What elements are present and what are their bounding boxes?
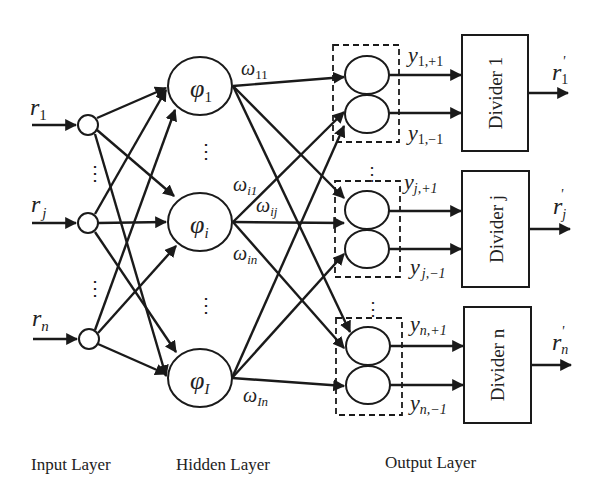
ellipsis-hidden-lower: ⋮ (196, 294, 216, 316)
hidden-output-edges (232, 77, 350, 386)
input-label-n: rn (32, 305, 49, 334)
output-nodes (345, 56, 390, 404)
caption-output-layer: Output Layer (385, 453, 476, 472)
input-node-1 (78, 115, 98, 135)
divider-label-j: Divider j (486, 195, 507, 263)
y-label-1-minus: y1,−1 (406, 120, 443, 147)
weight-label-i1: ωi1 (233, 173, 257, 198)
y-label-j-plus: yj,+1 (402, 169, 438, 196)
divider-label-1: Divider 1 (485, 57, 506, 129)
input-node-n (79, 329, 99, 349)
caption-input-layer: Input Layer (31, 455, 111, 474)
output-node-n-minus (346, 366, 390, 404)
output-label-rj: rj' (553, 187, 566, 222)
final-output-arrows (528, 93, 571, 365)
output-node-j-plus (345, 191, 389, 229)
weight-label-In: ωIn (243, 384, 268, 409)
output-node-j-minus (345, 230, 389, 268)
rbf-network-diagram: ⋮ ⋮ ⋮ ⋮ ⋮ ⋮ r1 rj rn φ1 φi φI ω11 ωi1 ωi… (0, 0, 593, 497)
weight-label-11: ω11 (241, 57, 268, 82)
output-label-rn: rn' (552, 324, 568, 357)
input-hidden-edges (95, 88, 176, 376)
ellipsis-dots: ⋮ ⋮ ⋮ ⋮ ⋮ ⋮ (85, 140, 382, 319)
ellipsis-output-lower: ⋮ (364, 299, 382, 319)
caption-hidden-layer: Hidden Layer (176, 455, 270, 474)
ellipsis-hidden-upper: ⋮ (196, 140, 216, 162)
ellipsis-output-upper: ⋮ (363, 164, 381, 184)
output-label-r1: r1' (552, 54, 568, 87)
y-label-n-minus: yn,−1 (408, 390, 447, 417)
weight-label-ij: ωij (256, 194, 278, 219)
ellipsis-input-upper: ⋮ (85, 162, 105, 184)
input-label-j: rj (31, 191, 47, 221)
y-label-1-plus: y1,+1 (406, 42, 443, 69)
input-labels: r1 rj rn (30, 94, 49, 334)
divider-labels: Divider 1 Divider j Divider n (485, 57, 508, 401)
input-node-j (78, 213, 98, 233)
divider-label-n: Divider n (487, 328, 508, 401)
output-node-1-minus (345, 95, 389, 133)
y-label-n-plus: yn,+1 (408, 311, 447, 338)
input-label-1: r1 (30, 94, 47, 123)
layer-captions: Input Layer Hidden Layer Output Layer (31, 453, 476, 474)
output-node-n-plus (346, 327, 390, 365)
output-node-1-plus (345, 56, 389, 94)
ellipsis-input-lower: ⋮ (85, 277, 105, 299)
y-label-j-minus: yj,−1 (408, 254, 446, 281)
output-y-labels: y1,+1 y1,−1 yj,+1 yj,−1 yn,+1 yn,−1 (402, 42, 447, 417)
final-output-labels: r1' rj' rn' (552, 54, 568, 357)
